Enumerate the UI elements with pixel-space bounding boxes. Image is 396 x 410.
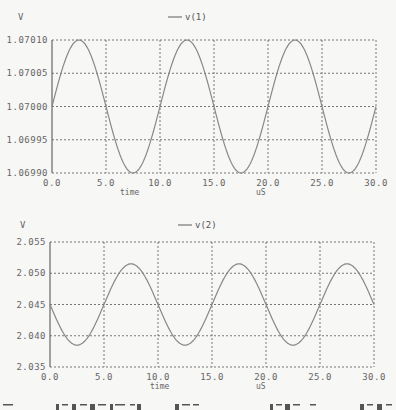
x-tick-label: 30.0 [364,178,388,188]
y-tick-label: 2.055 [16,237,46,247]
y-tick-label: 1.07010 [7,35,48,45]
x-tick-label: 15.0 [202,178,226,188]
y-tick-label: 1.07000 [7,102,48,112]
x-tick-label: 25.0 [308,372,332,382]
x-axis-name: time [120,188,139,197]
x-tick-labels: 0.05.010.015.020.025.030.0 [41,372,386,382]
y-tick-labels: 2.0552.0502.0452.0402.035 [16,237,46,372]
x-axis-unit: uS [256,188,266,197]
x-tick-label: 5.0 [97,178,115,188]
y-tick-label: 2.045 [16,300,46,310]
legend: v(1) [168,12,207,22]
y-tick-labels: 1.070101.070051.070001.069951.06990 [7,35,48,178]
y-tick-label: 1.06990 [7,168,48,178]
x-tick-label: 30.0 [362,372,386,382]
y-tick-label: 1.07005 [7,68,48,78]
y-unit-label: V [18,12,24,22]
y-unit-label: V [20,220,26,230]
x-tick-labels: 0.05.010.015.020.025.030.0 [43,178,388,188]
x-tick-label: 10.0 [146,372,170,382]
x-tick-label: 5.0 [95,372,113,382]
chart-v2-svg: V v(2) 2.0552.0502.0452.0402.035 0.05.01… [0,205,396,395]
x-axis-name: time [150,382,169,391]
x-tick-label: 15.0 [200,372,224,382]
caption-glyph-fragments [0,401,396,410]
x-axis-unit: uS [256,382,266,391]
chart-v2: V v(2) 2.0552.0502.0452.0402.035 0.05.01… [0,205,396,395]
y-tick-label: 2.035 [16,362,46,372]
y-tick-label: 2.040 [16,331,46,341]
y-tick-label: 1.06995 [7,135,48,145]
x-tick-label: 20.0 [256,178,280,188]
y-tick-label: 2.050 [16,268,46,278]
x-tick-label: 0.0 [43,178,61,188]
figure-caption-cropped [0,400,396,410]
chart-v1-svg: V v(1) 1.070101.070051.070001.069951.069… [0,0,396,205]
legend-label: v(2) [195,220,217,230]
x-tick-label: 0.0 [41,372,59,382]
legend-label: v(1) [185,12,207,22]
chart-v1: V v(1) 1.070101.070051.070001.069951.069… [0,0,396,205]
x-tick-label: 25.0 [310,178,334,188]
x-tick-label: 10.0 [148,178,172,188]
x-tick-label: 20.0 [254,372,278,382]
legend: v(2) [178,220,217,230]
